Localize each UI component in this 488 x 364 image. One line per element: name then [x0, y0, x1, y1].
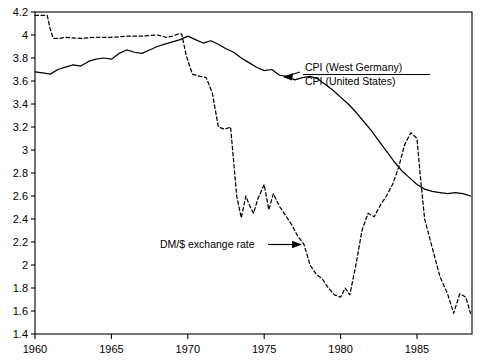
y-tick-label: 3.8 — [13, 52, 28, 64]
y-tick-label: 1.4 — [13, 328, 28, 340]
x-tick-label: 1980 — [328, 343, 352, 355]
y-tick-label: 4 — [22, 29, 28, 41]
y-tick-label: 2.6 — [13, 190, 28, 202]
y-tick-label: 1.8 — [13, 282, 28, 294]
y-tick-label: 3.2 — [13, 121, 28, 133]
x-tick-label: 1970 — [176, 343, 200, 355]
y-tick-label: 2.2 — [13, 236, 28, 248]
y-tick-label: 2.8 — [13, 167, 28, 179]
x-tick-label: 1960 — [23, 343, 47, 355]
x-tick-label: 1965 — [99, 343, 123, 355]
y-tick-label: 2.4 — [13, 213, 28, 225]
cpi-denominator-label: CPI (United States) — [305, 75, 395, 87]
x-tick-label: 1975 — [252, 343, 276, 355]
y-tick-label: 3.4 — [13, 98, 28, 110]
y-tick-label: 3.6 — [13, 75, 28, 87]
x-tick-label: 1985 — [405, 343, 429, 355]
cpi-numerator-label: CPI (West Germany) — [305, 61, 402, 73]
y-tick-label: 3 — [22, 144, 28, 156]
y-tick-label: 4.2 — [13, 6, 28, 18]
y-tick-label: 1.6 — [13, 305, 28, 317]
dm-dollar-label: DM/$ exchange rate — [160, 238, 255, 250]
exchange-rate-cpi-chart: 1.41.61.822.22.42.62.833.23.43.63.844.2 … — [0, 0, 488, 364]
chart-root: 1.41.61.822.22.42.62.833.23.43.63.844.2 … — [0, 0, 488, 364]
y-tick-label: 2 — [22, 259, 28, 271]
